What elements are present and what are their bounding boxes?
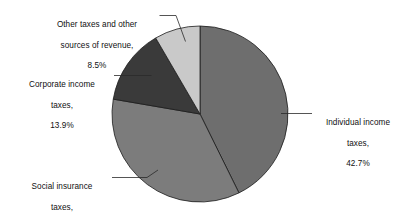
pie-chart: Other taxes and other sources of revenue… xyxy=(0,0,404,223)
slice-label-social: Social insurance taxes, 35.0% xyxy=(12,172,112,223)
slice-label-social-line2: taxes, xyxy=(12,203,112,213)
slice-label-social-line1: Social insurance xyxy=(12,182,112,192)
slice-label-corporate: Corporate income taxes, 13.9% xyxy=(10,70,114,141)
slice-label-other-line2: sources of revenue, xyxy=(34,41,160,51)
slice-label-corporate-line2: taxes, xyxy=(10,101,114,111)
slice-label-individual-line1: Individual income xyxy=(314,118,402,128)
slice-label-other-line1: Other taxes and other xyxy=(34,20,160,30)
slice-label-individual: Individual income taxes, 42.7% xyxy=(314,108,402,179)
slice-label-corporate-line1: Corporate income xyxy=(10,80,114,90)
slice-label-corporate-line3: 13.9% xyxy=(10,121,114,131)
slice-label-individual-line2: taxes, xyxy=(314,139,402,149)
slice-label-individual-line3: 42.7% xyxy=(314,159,402,169)
